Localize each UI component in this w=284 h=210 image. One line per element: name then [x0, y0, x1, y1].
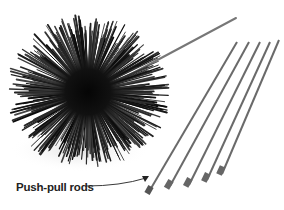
- brush-core: [50, 54, 126, 130]
- push-pull-rods-label: Push-pull rods: [16, 181, 94, 193]
- push-pull-rods: [144, 40, 279, 195]
- callout-arrow: [86, 178, 146, 186]
- product-photo: [0, 0, 284, 210]
